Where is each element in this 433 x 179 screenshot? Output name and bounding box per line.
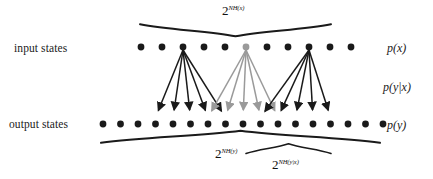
input-state-dot	[264, 44, 271, 51]
brace-group	[101, 24, 380, 153]
input-state-dot	[348, 44, 355, 51]
output-states-label: output states	[9, 118, 68, 130]
input-state-dot	[243, 44, 250, 51]
input-state-dot	[201, 44, 208, 51]
arrow-fan-0	[158, 50, 221, 111]
fan-arrow	[158, 50, 183, 111]
top-brace	[140, 24, 331, 36]
output-state-dot	[380, 121, 387, 128]
arrow-fan-1	[212, 50, 275, 111]
two-pow-nhx-exponent: NH(x)	[229, 4, 245, 11]
arrow-fans	[158, 50, 328, 111]
two-pow-nhyx-exponent: NH(y|x)	[279, 158, 299, 165]
output-state-dot	[240, 121, 247, 128]
two-pow-nhy-exponent: NH(y)	[222, 147, 238, 154]
two-pow-nhyx-label: 2NH(y|x)	[272, 157, 299, 173]
output-state-dot	[187, 121, 194, 128]
fan-arrow	[246, 50, 259, 110]
p-of-y-label: p(y)	[387, 118, 406, 133]
output-state-dots	[100, 121, 387, 128]
input-state-dot	[138, 44, 145, 51]
output-state-dot	[362, 121, 369, 128]
p-of-x-label: p(x)	[387, 41, 406, 56]
output-state-dot	[275, 121, 282, 128]
output-state-dot	[327, 121, 334, 128]
fan-arrow	[246, 50, 275, 111]
two-pow-nhx-label: 2NH(x)	[222, 3, 244, 19]
fan-arrow	[281, 50, 309, 111]
two-pow-nhy-label: 2NH(y)	[215, 146, 237, 162]
p-of-y-given-x-label: p(y|x)	[383, 80, 411, 95]
input-state-dot	[285, 44, 292, 51]
output-state-dot	[117, 121, 124, 128]
input-state-dot	[327, 44, 334, 51]
output-state-dot	[310, 121, 317, 128]
input-state-dots	[138, 44, 355, 51]
output-state-dot	[345, 121, 352, 128]
output-state-dot	[100, 121, 107, 128]
input-state-dot	[306, 44, 313, 51]
output-state-dot	[222, 121, 229, 128]
input-state-dot	[180, 44, 187, 51]
bottom-wide-brace	[101, 131, 380, 143]
input-state-dot	[222, 44, 229, 51]
input-state-dot	[159, 44, 166, 51]
bottom-narrow-brace	[246, 144, 331, 154]
output-state-dot	[292, 121, 299, 128]
fan-arrow	[212, 50, 246, 111]
arrow-fan-2	[265, 50, 328, 111]
output-state-dot	[257, 121, 264, 128]
output-state-dot	[205, 121, 212, 128]
channel-typical-set-diagram: input states output states p(x) p(y|x) p…	[0, 0, 433, 179]
output-state-dot	[152, 121, 159, 128]
input-states-label: input states	[14, 42, 67, 54]
output-state-dot	[170, 121, 177, 128]
output-state-dot	[135, 121, 142, 128]
